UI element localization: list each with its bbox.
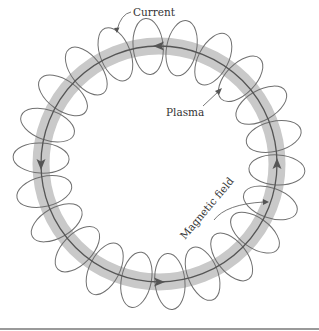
plasma-band: [41, 46, 277, 282]
plasma-pointer-arrow: [203, 91, 219, 106]
toroidal-plasma-diagram: Current Plasma Magnetic field: [0, 0, 319, 331]
current-label: Current: [133, 6, 176, 18]
bottom-rule: [0, 328, 319, 330]
plasma-label: Plasma: [166, 106, 204, 118]
magnetic-field-label: Magnetic field: [177, 175, 236, 242]
current-pointer-arrow: [117, 12, 131, 30]
magnetic-field-loops: [12, 17, 305, 311]
